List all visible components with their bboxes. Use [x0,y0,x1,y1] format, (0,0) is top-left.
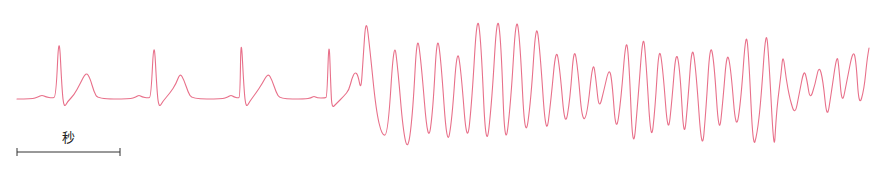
scale-bar-label: 秒 [62,127,75,146]
ecg-rhythm-strip [0,0,879,174]
time-scale-bar [17,148,120,156]
ecg-trace-line [17,23,869,144]
